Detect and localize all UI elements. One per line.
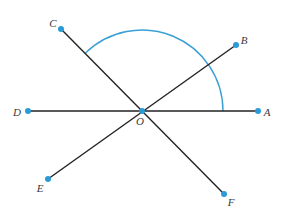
label-o: O	[136, 116, 144, 127]
angle-arc-aoc	[85, 30, 223, 111]
label-c: C	[49, 18, 56, 29]
label-f: F	[228, 197, 235, 208]
point-a	[255, 108, 261, 114]
label-d: D	[13, 107, 21, 118]
point-b	[233, 42, 239, 48]
point-d	[25, 108, 31, 114]
point-e	[45, 176, 51, 182]
label-b: B	[241, 35, 248, 46]
point-c	[58, 26, 64, 32]
point-o	[139, 108, 145, 114]
label-e: E	[37, 183, 44, 194]
geometry-diagram: A B C D E F O	[0, 0, 285, 218]
point-f	[221, 191, 227, 197]
label-a: A	[264, 107, 271, 118]
